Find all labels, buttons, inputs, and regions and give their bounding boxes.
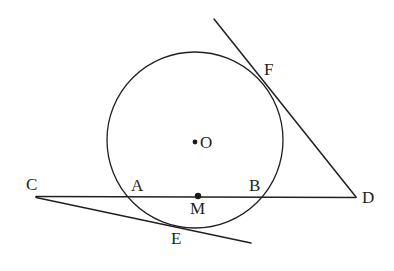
label-point-e: E bbox=[171, 230, 181, 247]
label-point-o: O bbox=[200, 134, 212, 151]
geometry-canvas bbox=[0, 0, 394, 271]
geometry-figure: O C A M B D F E bbox=[0, 0, 394, 271]
label-point-b: B bbox=[249, 177, 260, 194]
center-point-o-dot bbox=[193, 140, 198, 145]
label-point-a: A bbox=[131, 177, 143, 194]
label-point-c: C bbox=[26, 176, 37, 193]
label-point-m: M bbox=[190, 200, 205, 217]
tangent-line-ce bbox=[36, 198, 251, 244]
label-point-f: F bbox=[264, 61, 273, 78]
tangent-line-fd bbox=[214, 19, 356, 197]
label-point-d: D bbox=[362, 189, 374, 206]
